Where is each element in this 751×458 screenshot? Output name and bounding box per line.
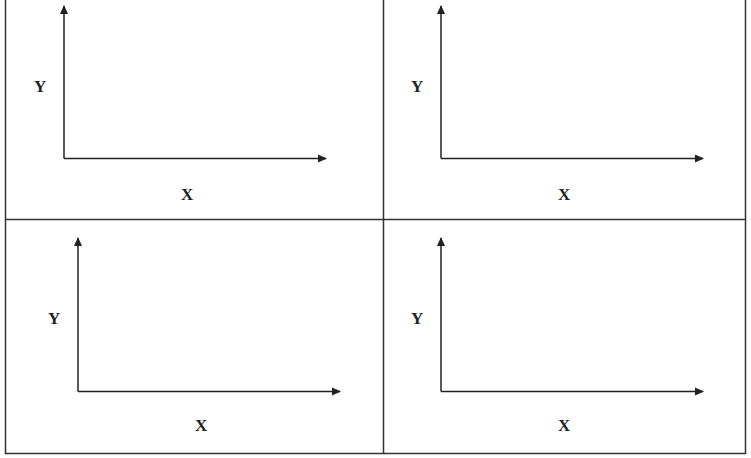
panel-bottom-left: Y X bbox=[48, 238, 340, 435]
x-axis-label: X bbox=[558, 416, 571, 435]
x-axis-label: X bbox=[195, 416, 208, 435]
x-axis-label: X bbox=[181, 185, 194, 204]
x-axis-label: X bbox=[558, 185, 571, 204]
panel-bottom-right: Y X bbox=[411, 238, 703, 435]
panel-top-left: Y X bbox=[34, 6, 326, 204]
outer-border bbox=[6, 0, 746, 454]
grid-frame bbox=[5, 0, 746, 454]
y-axis-label: Y bbox=[411, 77, 423, 96]
y-axis-label: Y bbox=[34, 77, 46, 96]
y-axis-label: Y bbox=[411, 309, 423, 328]
axes-grid-diagram: Y X Y X Y X Y X bbox=[0, 0, 751, 458]
y-axis-label: Y bbox=[48, 309, 60, 328]
panel-top-right: Y X bbox=[411, 6, 703, 204]
